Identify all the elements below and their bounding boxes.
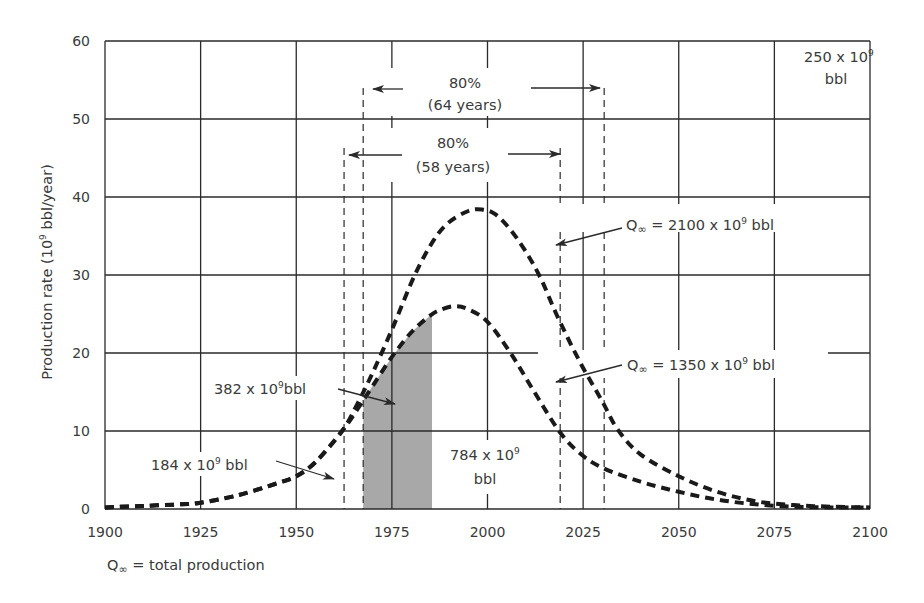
svg-text:bbl: bbl xyxy=(825,71,847,87)
production-rate-chart: 0102030405060 19001925195019752000202520… xyxy=(0,0,924,603)
svg-text:bbl: bbl xyxy=(474,471,496,487)
svg-text:184 x 109 bbl: 184 x 109 bbl xyxy=(151,456,248,473)
svg-text:80%: 80% xyxy=(449,75,481,91)
x-tick-label: 2025 xyxy=(565,524,601,540)
svg-text:382 x 109bbl: 382 x 109bbl xyxy=(214,380,306,397)
y-tick-label: 10 xyxy=(72,423,90,439)
svg-text:(64 years): (64 years) xyxy=(428,97,502,113)
svg-text:784 x 109: 784 x 109 xyxy=(450,446,520,463)
y-axis-label: Production rate (109 bbl/year) xyxy=(38,164,55,380)
x-tick-label: 1900 xyxy=(87,524,123,540)
svg-text:250 x 109: 250 x 109 xyxy=(804,48,874,65)
footnote-legend: Q∞ = total production xyxy=(107,557,265,576)
y-axis-ticks: 0102030405060 xyxy=(72,33,90,517)
x-tick-label: 2075 xyxy=(757,524,793,540)
x-tick-label: 2050 xyxy=(661,524,697,540)
label-knockouts xyxy=(146,42,866,494)
x-tick-label: 1925 xyxy=(183,524,219,540)
svg-text:80%: 80% xyxy=(437,135,469,151)
svg-text:Q∞ = 2100 x 109 bbl: Q∞ = 2100 x 109 bbl xyxy=(626,216,774,236)
y-tick-label: 60 xyxy=(72,33,90,49)
y-tick-label: 30 xyxy=(72,267,90,283)
x-tick-label: 1950 xyxy=(278,524,314,540)
shaded-area-382 xyxy=(363,315,432,510)
x-axis-ticks: 190019251950197520002025205020752100 xyxy=(87,524,888,540)
y-tick-label: 50 xyxy=(72,111,90,127)
y-tick-label: 0 xyxy=(81,501,90,517)
x-tick-label: 2100 xyxy=(852,524,888,540)
x-tick-label: 1975 xyxy=(374,524,410,540)
y-tick-label: 20 xyxy=(72,345,90,361)
y-tick-label: 40 xyxy=(72,189,90,205)
svg-text:(58 years): (58 years) xyxy=(416,159,490,175)
x-tick-label: 2000 xyxy=(470,524,506,540)
